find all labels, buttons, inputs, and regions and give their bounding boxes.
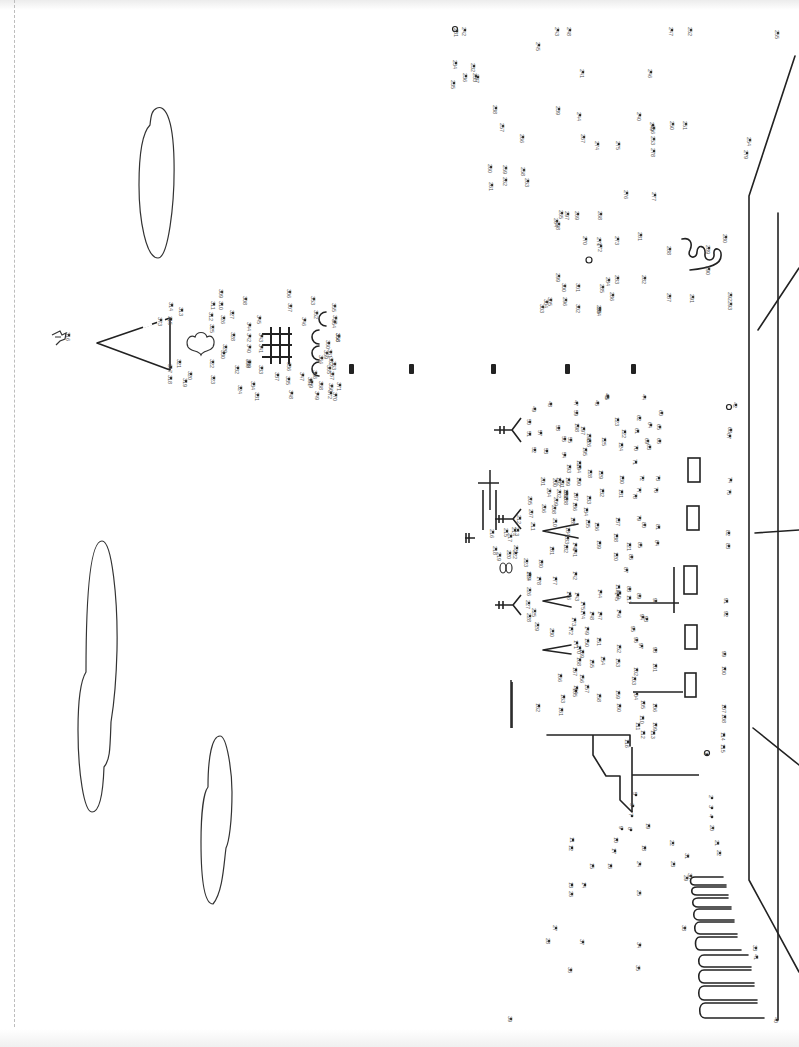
dot-label: 117 [626,595,632,604]
dot-label: 83 [725,543,731,549]
dot-38: 38 [681,925,687,931]
dot-94: 94 [639,614,645,620]
dot-label: 190 [576,477,582,486]
dot-357: 357 [332,315,338,324]
dot-122: 122 [621,429,627,438]
dot-44: 44 [641,394,647,400]
start-circles [453,27,732,756]
dot-label: 291 [689,294,695,303]
dot-217: 217 [507,533,513,542]
dot-label: 106 [652,703,658,712]
dot-340: 340 [246,344,252,353]
dot-310: 310 [218,301,224,310]
dot-label: 265 [558,210,564,219]
dot-105: 105 [640,700,646,709]
dot-label: 180 [538,559,544,568]
dot-label: 349 [314,391,320,400]
dot-label: 8 [627,827,633,830]
dot-156: 156 [579,674,585,683]
dot-label: 171 [573,640,579,649]
dot-20: 20 [709,825,715,831]
dot-label: 347 [299,372,305,381]
dot-label: 158 [596,693,602,702]
dot-102: 102 [633,667,639,676]
tower-arches [312,312,326,376]
dot-label: 98 [652,647,658,653]
dot-label: 162 [535,703,541,712]
cloud-left-small [201,736,232,904]
dot-label: 205 [527,496,533,505]
dot-label: 216 [489,529,495,538]
dot-label: 176 [566,591,572,600]
dot-label: 41 [753,954,759,960]
dot-label: 139 [596,540,602,549]
dot-label: 76 [653,487,659,493]
dot-292: 292 [727,292,733,301]
dot-239: 239 [555,106,561,115]
dot-99: 99 [721,651,727,657]
dot-266: 266 [519,134,525,143]
dot-label: 285 [599,284,605,293]
dot-84: 84 [654,540,660,546]
dot-123: 123 [614,417,620,426]
dot-label: 336 [286,362,292,371]
dot-label: 135 [585,519,591,528]
dot-220: 220 [506,550,512,559]
dot-label: 254 [746,137,752,146]
dot-143: 143 [574,592,580,601]
cloud-top [139,108,174,258]
dot-364: 364 [318,355,324,364]
dot-286: 286 [609,292,615,301]
dot-49: 49 [531,406,537,412]
dot-label: 346 [301,317,307,326]
dot-label: 245 [535,42,541,51]
dot-172: 172 [568,626,574,635]
dot-68: 68 [727,427,733,433]
dot-211: 211 [530,522,536,531]
dot-275: 275 [615,141,621,150]
dot-101: 101 [652,663,658,672]
dot-322: 322 [209,359,215,368]
dot-label: 124 [618,442,624,451]
dot-label: 301 [575,283,581,292]
dot-25: 25 [636,890,642,896]
dot-301: 301 [575,283,581,292]
dot-347: 347 [299,372,305,381]
dot-label: 48 [547,401,553,407]
dot-label: 57 [537,430,543,436]
dot-label: 263 [524,178,530,187]
dot-label: 358 [335,333,341,342]
dot-label: 357 [332,315,338,324]
dot-150: 150 [584,638,590,647]
dot-167: 167 [572,667,578,676]
dot-258: 258 [520,167,526,176]
dot-label: 46 [594,400,600,406]
dot-label: 143 [574,592,580,601]
dot-label: 324 [237,385,243,394]
dot-label: 339 [246,359,252,368]
dot-label: 167 [572,667,578,676]
dot-194: 194 [576,464,582,473]
dot-label: 306 [286,289,292,298]
dot-label: 195 [582,447,588,456]
dot-label: 50 [526,419,532,425]
dot-label: 292 [727,292,733,301]
dot-label: 325 [209,324,215,333]
dot-124: 124 [618,442,624,451]
dot-186: 186 [572,502,578,511]
dot-label: 314 [168,302,174,311]
dot-339: 339 [246,359,252,368]
dot-label: 262 [502,177,508,186]
dot-159: 159 [615,690,621,699]
dot-label: 42 [732,402,738,408]
dot-label: 288 [666,246,672,255]
dot-label: 73 [655,475,661,481]
dot-label: 53 [543,448,549,454]
comb-stairs-upper [691,877,742,950]
dot-272: 272 [597,243,603,252]
dot-label: 58 [555,425,561,431]
dot-331: 331 [254,392,260,401]
dot-label: 261 [488,182,494,191]
dot-label: 47 [573,400,579,406]
dot-label: 65 [656,424,662,430]
